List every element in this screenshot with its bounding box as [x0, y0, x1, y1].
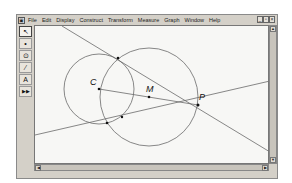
vertical-scrollbar[interactable]: ▲ ▼ — [269, 25, 277, 164]
point-m[interactable] — [148, 96, 151, 99]
point-on-circle[interactable] — [121, 116, 123, 118]
label-p[interactable]: P — [199, 92, 205, 102]
geometry-drawing — [35, 26, 269, 164]
menu-transform[interactable]: Transform — [108, 17, 133, 23]
menu-file[interactable]: File — [28, 17, 37, 23]
point-tool-icon[interactable]: • — [19, 38, 32, 49]
app-icon[interactable]: ▣ — [18, 17, 25, 24]
straightedge-tool-icon[interactable]: ⁄ — [19, 62, 32, 73]
sketch-canvas[interactable]: C M P — [34, 25, 269, 164]
point-c[interactable] — [98, 88, 101, 91]
point-tangent-upper[interactable] — [117, 57, 120, 60]
window-controls: _ ▫ × — [257, 16, 275, 23]
menu-graph[interactable]: Graph — [164, 17, 179, 23]
scroll-right-button[interactable]: ▶ — [262, 165, 268, 171]
label-c[interactable]: C — [90, 77, 97, 87]
compass-tool-icon[interactable]: ⊙ — [19, 50, 32, 61]
tangent-line-upper[interactable] — [62, 26, 269, 152]
text-tool-icon[interactable]: A — [19, 74, 32, 85]
point-tangent-lower[interactable] — [106, 122, 109, 125]
menu-help[interactable]: Help — [209, 17, 220, 23]
custom-tool-icon[interactable]: ▶▶ — [19, 86, 32, 97]
label-m[interactable]: M — [146, 84, 154, 94]
menu-display[interactable]: Display — [56, 17, 74, 23]
scroll-down-button[interactable]: ▼ — [270, 157, 276, 163]
horizontal-scrollbar[interactable]: ◀ ▶ — [34, 164, 269, 171]
menu-construct[interactable]: Construct — [79, 17, 103, 23]
sketchpad-window: ▣ File Edit Display Construct Transform … — [16, 14, 278, 179]
point-p[interactable] — [197, 104, 200, 107]
menu-window[interactable]: Window — [185, 17, 205, 23]
arrow-tool-icon[interactable]: ↖ — [19, 26, 32, 37]
menu-bar: ▣ File Edit Display Construct Transform … — [17, 15, 277, 25]
toolbox: ↖ • ⊙ ⁄ A ▶▶ — [18, 25, 33, 165]
close-button[interactable]: × — [269, 16, 275, 23]
scroll-left-button[interactable]: ◀ — [35, 165, 41, 171]
menu-measure[interactable]: Measure — [138, 17, 159, 23]
scroll-up-button[interactable]: ▲ — [270, 26, 276, 32]
menu-edit[interactable]: Edit — [42, 17, 51, 23]
